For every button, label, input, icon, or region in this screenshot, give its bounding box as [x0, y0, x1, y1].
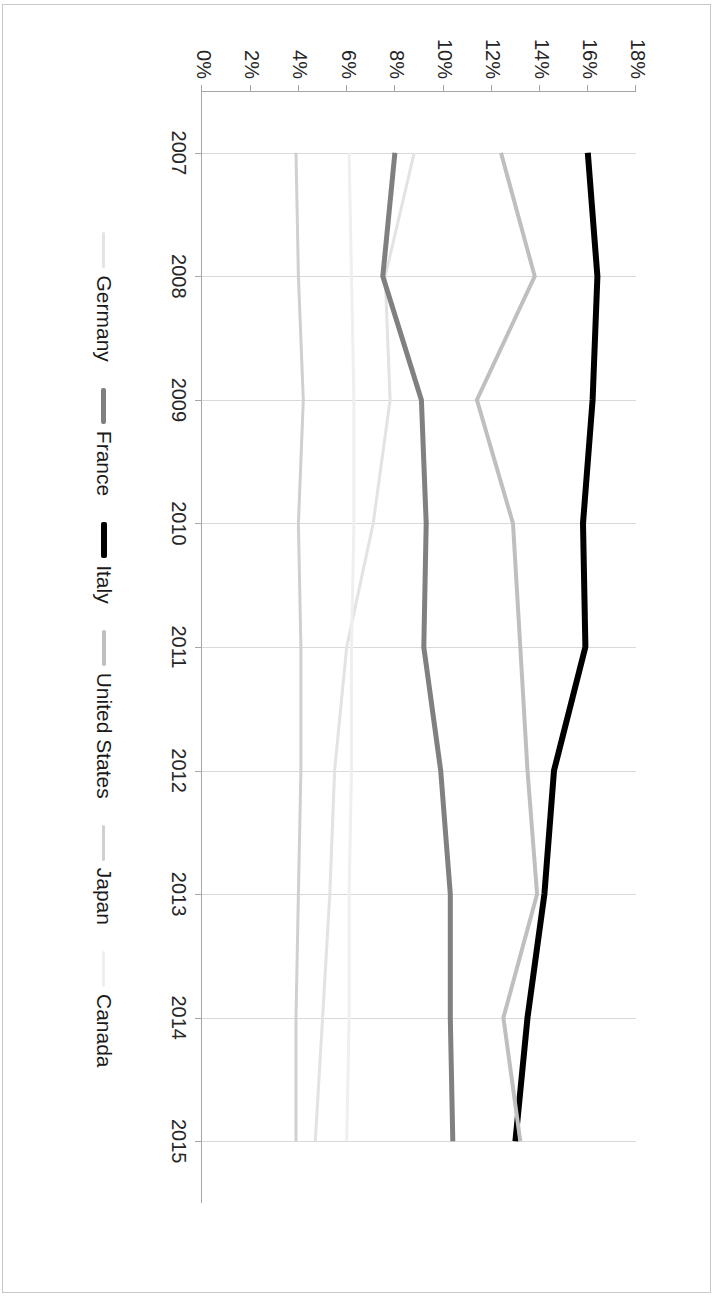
category-tick-label: 2013 [167, 854, 190, 934]
value-tick-label: 0% [192, 35, 215, 79]
value-tick-label: 16% [577, 35, 600, 79]
value-tick-label: 18% [626, 35, 649, 79]
value-tick [539, 85, 540, 91]
category-tick-label: 2014 [167, 977, 190, 1057]
category-tick [195, 276, 201, 277]
category-tick [195, 894, 201, 895]
value-tick-label: 2% [240, 35, 263, 79]
value-tick [346, 85, 347, 91]
legend-swatch-icon [102, 232, 105, 268]
value-tick-label: 14% [529, 35, 552, 79]
chart-legend: GermanyFranceItalyUnited StatesJapanCana… [84, 35, 124, 1265]
category-tick-label: 2015 [167, 1101, 190, 1181]
series-lines [202, 91, 636, 1203]
legend-label: United States [92, 672, 116, 798]
legend-item-japan[interactable]: Japan [92, 824, 116, 924]
value-tick [297, 85, 298, 91]
category-tick-label: 2011 [167, 607, 190, 687]
value-tick [249, 85, 250, 91]
legend-swatch-icon [102, 629, 106, 665]
category-tick [195, 1017, 201, 1018]
legend-label: Italy [92, 565, 116, 604]
category-tick-label: 2012 [167, 730, 190, 810]
series-line-germany [315, 152, 414, 1140]
value-tick [201, 85, 202, 91]
legend-label: Canada [92, 993, 116, 1067]
value-tick-label: 10% [433, 35, 456, 79]
value-tick-label: 4% [288, 35, 311, 79]
series-line-united-states [476, 152, 536, 1140]
value-tick [490, 85, 491, 91]
value-tick [587, 85, 588, 91]
legend-swatch-icon [101, 522, 107, 558]
category-tick-label: 2008 [167, 236, 190, 316]
category-tick-label: 2009 [167, 359, 190, 439]
legend-item-united-states[interactable]: United States [92, 629, 116, 798]
legend-item-germany[interactable]: Germany [92, 232, 116, 361]
value-tick-label: 6% [336, 35, 359, 79]
legend-label: France [92, 430, 116, 495]
series-line-japan [296, 152, 303, 1140]
value-tick-label: 12% [481, 35, 504, 79]
category-tick-label: 2007 [167, 112, 190, 192]
legend-item-italy[interactable]: Italy [92, 522, 116, 604]
series-line-france [382, 152, 452, 1140]
legend-swatch-icon [101, 387, 106, 423]
value-tick [635, 85, 636, 91]
category-tick-label: 2010 [167, 483, 190, 563]
category-tick [195, 647, 201, 648]
legend-swatch-icon [102, 824, 105, 860]
value-tick-label: 8% [384, 35, 407, 79]
category-tick [195, 399, 201, 400]
value-tick [394, 85, 395, 91]
category-tick [195, 1141, 201, 1142]
category-axis-line [202, 91, 636, 92]
legend-label: Japan [92, 867, 116, 924]
legend-item-france[interactable]: France [92, 387, 116, 495]
line-chart-figure: 0%2%4%6%8%10%12%14%16%18% 20072008200920… [58, 35, 658, 1265]
series-line-italy [515, 152, 597, 1140]
plot-area [202, 91, 636, 1203]
category-tick [195, 770, 201, 771]
category-tick [195, 152, 201, 153]
legend-swatch-icon [102, 950, 105, 986]
category-tick [195, 523, 201, 524]
legend-item-canada[interactable]: Canada [92, 950, 116, 1067]
value-tick [442, 85, 443, 91]
legend-label: Germany [92, 275, 116, 361]
rotated-figure-wrapper: 0%2%4%6%8%10%12%14%16%18% 20072008200920… [58, 35, 658, 1265]
chart-page: 0%2%4%6%8%10%12%14%16%18% 20072008200920… [0, 0, 715, 1299]
